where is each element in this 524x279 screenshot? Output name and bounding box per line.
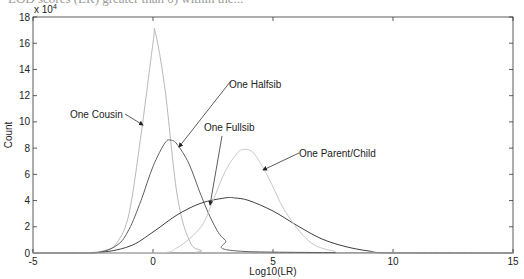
y-tick-label: 6 bbox=[24, 169, 30, 180]
y-tick-label: 16 bbox=[19, 38, 31, 49]
y-tick-label: 4 bbox=[24, 195, 30, 206]
annotation-label: One Halfsib bbox=[229, 79, 282, 90]
annotation-arrow bbox=[179, 82, 230, 147]
series-line-one-cousin bbox=[33, 28, 513, 253]
x-tick-label: 0 bbox=[150, 256, 156, 267]
y-axis-label: Count bbox=[3, 121, 14, 148]
annotation-label: One Fullsib bbox=[204, 122, 255, 133]
series-line-one-fullsib bbox=[33, 197, 513, 253]
annotations: One CousinOne HalfsibOne FullsibOne Pare… bbox=[70, 79, 376, 205]
annotation-arrow bbox=[210, 136, 222, 205]
y-tick-label: 0 bbox=[24, 248, 30, 259]
x-tick-label: 15 bbox=[507, 256, 519, 267]
axis-ticks: -5051015024681012141618 bbox=[19, 12, 519, 268]
series-curves bbox=[33, 28, 513, 253]
annotation-label: One Parent/Child bbox=[299, 148, 376, 159]
y-tick-label: 8 bbox=[24, 143, 30, 154]
annotation-label: One Cousin bbox=[70, 109, 123, 120]
x-tick-label: 10 bbox=[387, 256, 399, 267]
x-axis-label: Log10(LR) bbox=[249, 266, 296, 277]
y-tick-label: 10 bbox=[19, 116, 31, 127]
series-line-one-halfsib bbox=[33, 140, 513, 253]
plot-area bbox=[33, 17, 513, 253]
y-tick-label: 12 bbox=[19, 90, 31, 101]
annotation-arrow bbox=[263, 153, 299, 170]
line-chart: -5051015024681012141618 One CousinOne Ha… bbox=[0, 0, 524, 279]
y-scale-label: x 104 bbox=[34, 3, 57, 15]
annotation-arrow bbox=[125, 114, 143, 125]
y-tick-label: 2 bbox=[24, 221, 30, 232]
y-tick-label: 18 bbox=[19, 12, 31, 23]
y-tick-label: 14 bbox=[19, 64, 31, 75]
